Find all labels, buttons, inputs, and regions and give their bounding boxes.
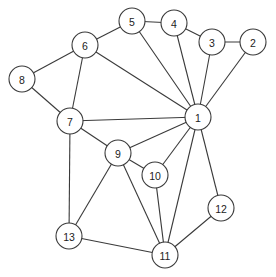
edge-4-1 bbox=[174, 23, 198, 117]
node-5: 5 bbox=[119, 8, 145, 34]
node-label: 3 bbox=[209, 37, 215, 49]
node-label: 4 bbox=[171, 18, 177, 30]
edge-6-1 bbox=[85, 45, 198, 117]
node-label: 9 bbox=[115, 148, 121, 160]
node-13: 13 bbox=[56, 223, 82, 249]
edge-13-11 bbox=[69, 236, 165, 255]
node-2: 2 bbox=[240, 29, 266, 55]
node-label: 12 bbox=[215, 203, 227, 215]
edge-7-1 bbox=[70, 117, 198, 121]
edge-5-1 bbox=[132, 21, 198, 117]
node-11: 11 bbox=[152, 242, 178, 268]
node-label: 7 bbox=[67, 116, 73, 128]
node-10: 10 bbox=[142, 162, 168, 188]
edge-1-11 bbox=[165, 117, 198, 255]
node-label: 8 bbox=[19, 74, 25, 86]
edge-1-12 bbox=[198, 117, 221, 208]
node-label: 10 bbox=[149, 170, 161, 182]
nodes-layer: 12345678910111213 bbox=[9, 8, 266, 268]
node-4: 4 bbox=[161, 10, 187, 36]
node-label: 2 bbox=[250, 37, 256, 49]
node-7: 7 bbox=[57, 108, 83, 134]
edge-7-13 bbox=[69, 121, 70, 236]
node-6: 6 bbox=[72, 32, 98, 58]
node-label: 5 bbox=[129, 16, 135, 28]
node-3: 3 bbox=[199, 29, 225, 55]
node-label: 13 bbox=[63, 231, 75, 243]
node-12: 12 bbox=[208, 195, 234, 221]
node-9: 9 bbox=[105, 140, 131, 166]
graph-diagram: 12345678910111213 bbox=[0, 0, 276, 277]
node-1: 1 bbox=[185, 104, 211, 130]
node-label: 6 bbox=[82, 40, 88, 52]
edge-9-13 bbox=[69, 153, 118, 236]
node-label: 1 bbox=[195, 112, 201, 124]
node-label: 11 bbox=[160, 250, 171, 262]
node-8: 8 bbox=[9, 66, 35, 92]
